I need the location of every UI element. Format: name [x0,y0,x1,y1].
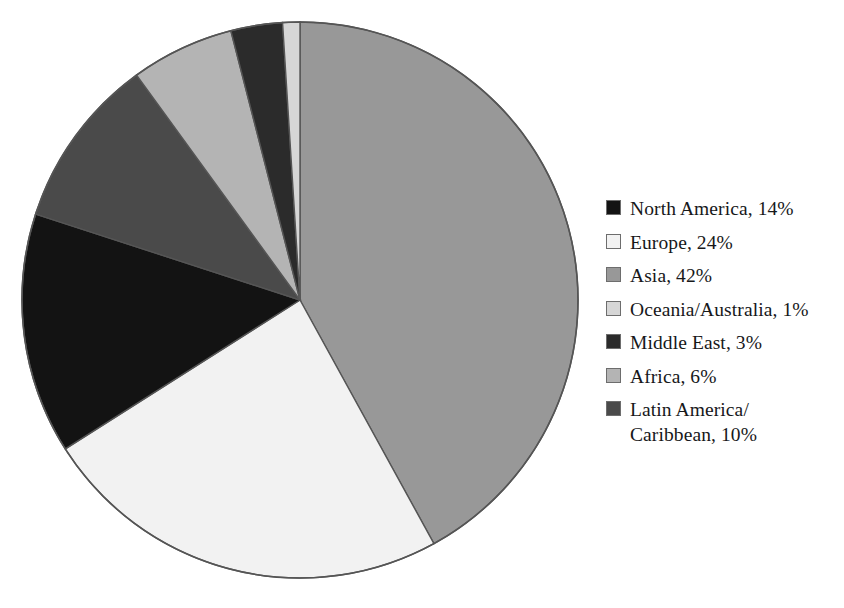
legend-item-label: Oceania/Australia, 1% [630,297,809,322]
legend-item[interactable]: Oceania/Australia, 1% [606,297,838,322]
legend-swatch-icon [606,234,621,249]
pie-slice-group: Asia, 42%Europe, 24%North America, 14%La… [22,22,578,578]
legend-item[interactable]: Africa, 6% [606,364,838,389]
pie-chart-plot-area: Asia, 42%Europe, 24%North America, 14%La… [18,8,584,598]
legend-item[interactable]: Asia, 42% [606,263,838,288]
legend-item-label: North America, 14% [630,196,794,221]
chart-legend: North America, 14%Europe, 24%Asia, 42%Oc… [606,196,838,456]
legend-swatch-icon [606,401,621,416]
legend-item[interactable]: Europe, 24% [606,230,838,255]
legend-item-label: Latin America/ Caribbean, 10% [630,397,757,447]
legend-swatch-icon [606,267,621,282]
pie-chart-svg: Asia, 42%Europe, 24%North America, 14%La… [18,8,584,598]
legend-item-label: Middle East, 3% [630,330,762,355]
legend-item[interactable]: Middle East, 3% [606,330,838,355]
legend-item[interactable]: North America, 14% [606,196,838,221]
pie-chart-figure: Asia, 42%Europe, 24%North America, 14%La… [0,0,844,608]
legend-swatch-icon [606,368,621,383]
legend-item[interactable]: Latin America/ Caribbean, 10% [606,397,838,447]
legend-swatch-icon [606,334,621,349]
legend-swatch-icon [606,200,621,215]
legend-item-label: Africa, 6% [630,364,717,389]
legend-item-label: Asia, 42% [630,263,712,288]
legend-item-label: Europe, 24% [630,230,733,255]
legend-swatch-icon [606,301,621,316]
